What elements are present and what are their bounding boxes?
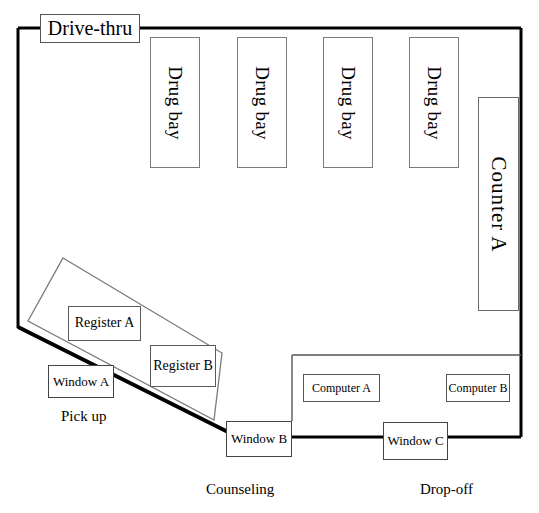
window-c[interactable]: Window C — [383, 422, 448, 460]
drive-thru-label: Drive-thru — [48, 17, 132, 40]
room-drug-bay-3[interactable]: Drug bay — [323, 37, 373, 168]
room-drug-bay-4[interactable]: Drug bay — [409, 37, 459, 168]
drug-bay-2-label: Drug bay — [251, 66, 273, 140]
room-computer-a[interactable]: Computer A — [303, 374, 380, 402]
computer-b-label: Computer B — [449, 381, 508, 396]
room-register-b[interactable]: Register B — [150, 345, 216, 387]
computer-a-label: Computer A — [312, 381, 371, 396]
counter-a-label: Counter A — [486, 156, 511, 252]
window-a-label: Window A — [53, 374, 109, 390]
register-a-label: Register A — [75, 315, 135, 331]
window-c-label: Window C — [387, 433, 443, 449]
register-b-label: Register B — [153, 358, 213, 374]
window-b-label: Window B — [231, 431, 287, 447]
drug-bay-4-label: Drug bay — [423, 66, 445, 140]
window-b[interactable]: Window B — [226, 421, 292, 457]
drug-bay-3-label: Drug bay — [337, 66, 359, 140]
room-counter-a[interactable]: Counter A — [478, 97, 519, 311]
area-label-pick-up: Pick up — [61, 408, 106, 425]
window-a[interactable]: Window A — [48, 365, 114, 398]
room-drive-thru[interactable]: Drive-thru — [40, 14, 140, 43]
pharmacy-floor-plan: Drive-thru Drug bay Drug bay Drug bay Dr… — [0, 0, 539, 513]
area-label-drop-off: Drop-off — [420, 481, 473, 498]
room-computer-b[interactable]: Computer B — [446, 374, 510, 402]
room-drug-bay-1[interactable]: Drug bay — [150, 37, 200, 168]
room-register-a[interactable]: Register A — [68, 306, 141, 341]
room-drug-bay-2[interactable]: Drug bay — [237, 37, 287, 168]
area-label-counseling: Counseling — [206, 481, 274, 498]
drug-bay-1-label: Drug bay — [164, 66, 186, 140]
